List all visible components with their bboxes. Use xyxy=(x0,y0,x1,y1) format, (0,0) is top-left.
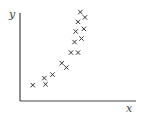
data-point-x-marker xyxy=(83,15,87,19)
data-point-x-marker xyxy=(73,29,77,33)
data-point-x-marker xyxy=(31,83,35,87)
data-point-x-marker xyxy=(69,50,73,54)
x-axis-label: x xyxy=(126,103,132,114)
data-point-x-marker xyxy=(50,72,54,76)
data-point-x-marker xyxy=(76,20,80,24)
y-axis-label: y xyxy=(9,9,15,20)
scatter-plot xyxy=(0,0,142,119)
data-point-x-marker xyxy=(72,40,76,44)
data-point-x-marker xyxy=(76,50,80,54)
data-point-x-marker xyxy=(64,65,68,69)
data-point-x-marker xyxy=(60,61,64,65)
data-points xyxy=(31,10,88,87)
data-point-x-marker xyxy=(43,82,47,86)
data-point-x-marker xyxy=(82,27,86,31)
data-point-x-marker xyxy=(42,76,46,80)
data-point-x-marker xyxy=(78,10,82,14)
data-point-x-marker xyxy=(79,36,83,40)
